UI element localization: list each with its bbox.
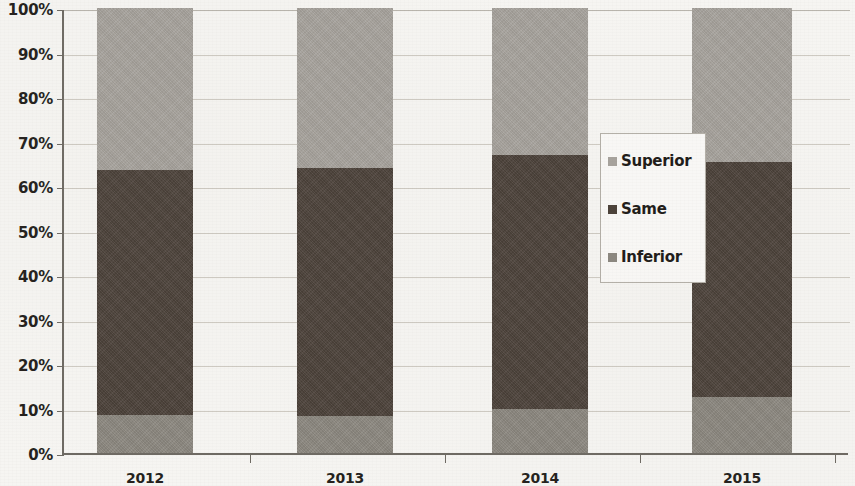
y-axis-tick: [57, 55, 64, 56]
x-axis-tick: [835, 455, 836, 463]
y-axis-label: 80%: [0, 90, 53, 108]
legend-item-superior[interactable]: Superior: [608, 152, 691, 170]
legend-swatch-icon: [608, 205, 617, 214]
legend-label: Inferior: [621, 248, 682, 266]
segment-texture: [492, 8, 588, 155]
x-axis-tick: [445, 455, 446, 463]
bar-segment-inferior-2014: [492, 409, 588, 454]
y-axis-label: 90%: [0, 46, 53, 64]
y-axis-label: 40%: [0, 268, 53, 286]
segment-texture: [692, 162, 792, 398]
bar-2013: [297, 8, 393, 453]
legend-label: Superior: [621, 152, 691, 170]
y-axis-tick: [57, 455, 64, 456]
bar-segment-inferior-2012: [97, 415, 193, 453]
y-axis-tick: [57, 277, 64, 278]
bar-segment-superior-2012: [97, 8, 193, 170]
segment-texture: [97, 170, 193, 415]
bar-2014: [492, 8, 588, 453]
legend-swatch-icon: [608, 157, 617, 166]
legend-swatch-icon: [608, 253, 617, 262]
x-axis-label-2012: 2012: [85, 470, 205, 486]
y-axis-label: 60%: [0, 179, 53, 197]
bar-segment-same-2014: [492, 155, 588, 409]
bar-segment-inferior-2013: [297, 416, 393, 453]
y-axis-label: 100%: [0, 1, 53, 19]
segment-texture: [692, 8, 792, 162]
y-axis-tick: [57, 233, 64, 234]
y-axis-tick: [57, 188, 64, 189]
y-axis-tick: [57, 322, 64, 323]
y-axis-label: 70%: [0, 135, 53, 153]
legend-item-same[interactable]: Same: [608, 200, 667, 218]
legend-item-inferior[interactable]: Inferior: [608, 248, 682, 266]
x-axis-label-2014: 2014: [480, 470, 600, 486]
chart-legend: SuperiorSameInferior: [600, 133, 706, 283]
plot-area: 0%10%20%30%40%50%60%70%80%90%100% 201220…: [62, 10, 848, 455]
y-axis-tick: [57, 366, 64, 367]
y-axis-tick: [57, 99, 64, 100]
bar-segment-same-2013: [297, 168, 393, 416]
y-axis-label: 30%: [0, 313, 53, 331]
x-axis-label-2013: 2013: [285, 470, 405, 486]
x-axis-label-2015: 2015: [682, 470, 802, 486]
y-axis-tick: [57, 10, 64, 11]
segment-texture: [97, 8, 193, 170]
y-axis-label: 10%: [0, 402, 53, 420]
segment-texture: [492, 409, 588, 454]
segment-texture: [97, 415, 193, 453]
segment-texture: [297, 168, 393, 416]
bar-segment-superior-2013: [297, 8, 393, 168]
bar-2012: [97, 8, 193, 453]
y-axis-label: 50%: [0, 224, 53, 242]
y-axis-label: 20%: [0, 357, 53, 375]
y-axis-tick: [57, 144, 64, 145]
segment-texture: [297, 8, 393, 168]
segment-texture: [492, 155, 588, 409]
chart-container: 0%10%20%30%40%50%60%70%80%90%100% 201220…: [0, 0, 855, 486]
y-axis-tick: [57, 411, 64, 412]
y-axis-label: 0%: [0, 446, 53, 464]
segment-texture: [692, 397, 792, 453]
bar-segment-superior-2015: [692, 8, 792, 162]
bar-segment-same-2015: [692, 162, 792, 398]
segment-texture: [297, 416, 393, 453]
bar-segment-inferior-2015: [692, 397, 792, 453]
legend-label: Same: [621, 200, 667, 218]
x-axis-tick: [640, 455, 641, 463]
x-axis-tick: [250, 455, 251, 463]
bar-segment-same-2012: [97, 170, 193, 415]
bar-segment-superior-2014: [492, 8, 588, 155]
bar-2015: [692, 8, 792, 453]
